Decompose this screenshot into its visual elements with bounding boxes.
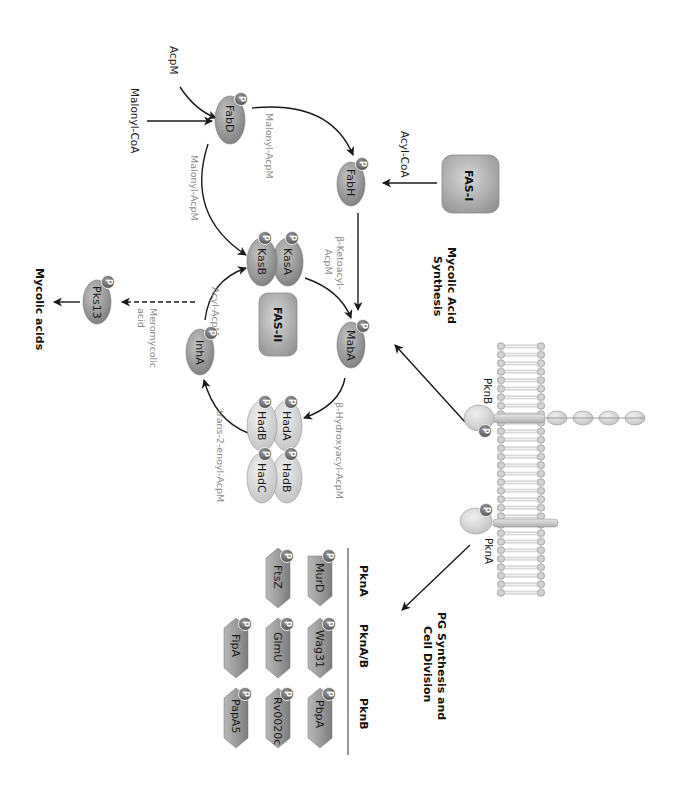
svg-text:P: P	[104, 279, 113, 285]
svg-text:Wag31: Wag31	[313, 630, 326, 668]
svg-text:GlmU: GlmU	[271, 632, 284, 662]
svg-text:P: P	[287, 451, 296, 457]
kinase-pknb: P	[464, 405, 645, 438]
enzyme-kasb: KasB P	[247, 232, 277, 287]
svg-text:KasB: KasB	[255, 248, 268, 275]
fas1-complex: FAS-I	[442, 155, 499, 213]
svg-text:P: P	[283, 691, 292, 697]
svg-text:MurD: MurD	[313, 563, 326, 592]
fas2-label: FAS-II	[271, 307, 284, 342]
svg-text:P: P	[261, 399, 270, 405]
label-pknb: PknB	[482, 378, 494, 404]
svg-text:P: P	[241, 621, 250, 627]
pathway-pg-line1: PG Synthesis and	[435, 612, 448, 720]
substrate-pbpa: PbpA P	[308, 688, 336, 749]
substrate-ftsz: FtsZ P	[266, 548, 294, 608]
input-malonyl-coa: Malonyl-CoA	[129, 88, 141, 154]
substrate-rv0020c: Rv0020c P	[266, 688, 294, 749]
substrate-table: PknA PknA/B PknB	[348, 548, 370, 755]
substrate-glmu: GlmU P	[266, 618, 294, 679]
substrate-wag31: Wag31 P	[308, 618, 336, 679]
svg-text:Rv0020c: Rv0020c	[271, 697, 284, 745]
svg-text:P: P	[359, 323, 368, 329]
fas2-complex: FAS-II	[259, 293, 297, 356]
enzyme-hadb-1: HadB P	[247, 396, 277, 452]
enzyme-fabh: FabH P	[337, 158, 369, 207]
label-meromycolic-line2: acid	[136, 308, 147, 328]
svg-text:P: P	[241, 691, 250, 697]
pathway-mycolic-line1: Mycolic Acid	[445, 247, 458, 324]
svg-text:Pks13: Pks13	[90, 286, 103, 319]
label-meromycolic-line1: Meromycolic	[148, 308, 159, 368]
input-acpm: AcpM	[168, 46, 180, 75]
svg-text:P: P	[207, 330, 216, 336]
svg-text:P: P	[261, 235, 270, 241]
column-header-pknb: PknB	[357, 698, 370, 730]
pathway-mycolic-line2: Synthesis	[431, 256, 444, 317]
svg-text:PbpA: PbpA	[313, 700, 326, 729]
label-ketoacyl-line1: β-Ketoacyl-	[335, 236, 346, 289]
svg-text:HadA: HadA	[280, 411, 293, 441]
column-header-pkna-b: PknA/B	[357, 624, 370, 668]
svg-text:P: P	[482, 507, 491, 513]
svg-text:P: P	[261, 451, 270, 457]
enzyme-pks13: Pks13 P	[83, 276, 115, 325]
svg-text:P: P	[283, 621, 292, 627]
label-malonyl-acpm-left: Malonyl-AcpM	[189, 155, 200, 221]
enzyme-maba: MabA P	[337, 320, 370, 369]
enzyme-fabd: FabD P	[215, 93, 248, 145]
svg-text:FtsZ: FtsZ	[271, 565, 284, 589]
label-ketoacyl-line2: AcpM	[323, 249, 334, 275]
cell-membrane	[497, 342, 545, 597]
output-mycolic-acids: Mycolic acids	[33, 268, 46, 351]
svg-text:FipA: FipA	[229, 634, 242, 658]
substrate-papa5: PapA5 P	[224, 688, 252, 749]
svg-text:KasA: KasA	[281, 248, 294, 275]
svg-text:P: P	[237, 96, 246, 102]
svg-text:P: P	[358, 161, 367, 167]
svg-text:P: P	[283, 553, 292, 559]
fas1-label: FAS-I	[462, 170, 475, 201]
svg-text:MabA: MabA	[344, 330, 357, 361]
diagram-canvas: AcpM Malonyl-CoA Acyl-CoA Malonyl-AcpM M…	[0, 0, 677, 789]
svg-text:P: P	[481, 428, 490, 434]
svg-text:P: P	[325, 691, 334, 697]
svg-text:HadB: HadB	[255, 411, 268, 441]
input-acyl-coa: Acyl-CoA	[399, 131, 411, 178]
enzyme-inha: InhA P	[186, 327, 218, 376]
column-header-pkna: PknA	[357, 565, 370, 597]
svg-text:FabD: FabD	[223, 105, 236, 133]
label-pkna: PknA	[483, 538, 495, 565]
pathway-pg-line2: Cell Division	[421, 626, 434, 702]
substrate-fipa: FipA P	[224, 618, 252, 679]
svg-text:P: P	[288, 235, 297, 241]
label-hydroxyacyl-acpm: β-Hydroxyacyl-AcpM	[334, 402, 345, 499]
enzyme-kasa: KasA P	[273, 232, 303, 287]
svg-text:PapA5: PapA5	[229, 699, 242, 733]
svg-text:HadC: HadC	[255, 463, 268, 493]
svg-text:P: P	[325, 621, 334, 627]
enzyme-hadc: HadC P	[247, 448, 277, 504]
svg-text:P: P	[325, 553, 334, 559]
substrate-murd: MurD P	[308, 550, 336, 607]
svg-text:InhA: InhA	[193, 340, 206, 365]
svg-text:HadB: HadB	[280, 463, 293, 493]
label-enoyl-acpm: trans-2-enoyl-AcpM	[215, 410, 226, 502]
svg-text:FabH: FabH	[344, 169, 357, 196]
label-malonyl-acpm-top: Malonyl-AcpM	[264, 113, 275, 179]
svg-text:P: P	[287, 399, 296, 405]
